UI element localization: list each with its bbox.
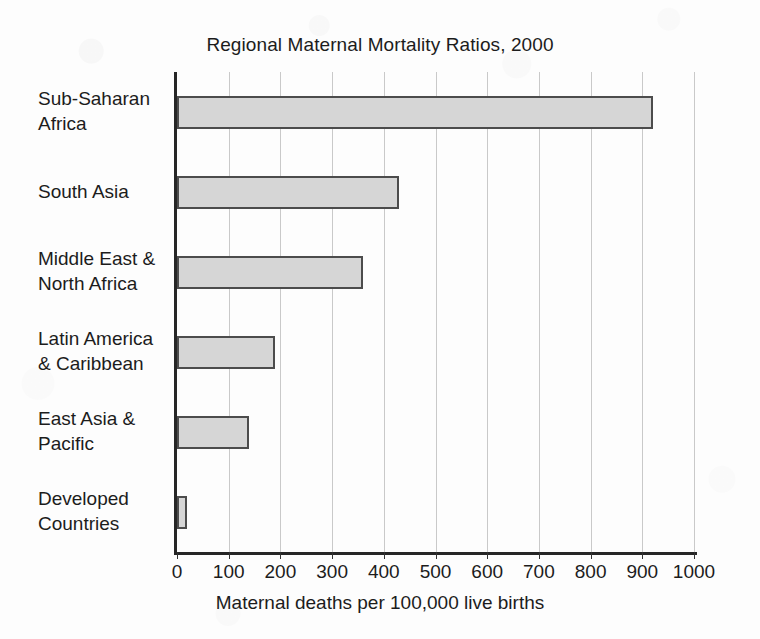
category-label-south-asia: South Asia [38,179,170,204]
x-tick-800 [591,552,592,559]
category-label-line: Latin America [38,326,170,351]
gridline-500 [436,72,437,552]
x-tick-400 [384,552,385,559]
x-tick-label-400: 400 [368,561,400,583]
category-label-line: Countries [38,511,170,536]
gridline-400 [384,72,385,552]
gridline-100 [229,72,230,552]
bar-developed-countries [177,496,187,529]
gridline-800 [591,72,592,552]
bar-middle-east-north-africa [177,256,363,289]
x-tick-500 [436,552,437,559]
category-label-line: South Asia [38,179,170,204]
category-label-latin-america-caribbean: Latin America& Caribbean [38,326,170,376]
x-tick-200 [280,552,281,559]
gridline-900 [642,72,643,552]
x-tick-label-0: 0 [172,561,183,583]
bar-south-asia [177,176,399,209]
gridline-200 [280,72,281,552]
x-tick-label-300: 300 [316,561,348,583]
chart-title: Regional Maternal Mortality Ratios, 2000 [0,34,760,56]
x-tick-0 [177,552,178,559]
category-label-line: Africa [38,111,170,136]
category-label-line: Sub-Saharan [38,86,170,111]
category-label-line: East Asia & [38,406,170,431]
category-label-developed-countries: DevelopedCountries [38,486,170,536]
x-tick-label-900: 900 [626,561,658,583]
x-tick-900 [642,552,643,559]
x-tick-label-100: 100 [213,561,245,583]
x-tick-label-600: 600 [471,561,503,583]
category-label-line: Pacific [38,431,170,456]
x-tick-label-1000: 1000 [673,561,715,583]
x-tick-1000 [694,552,695,559]
x-tick-label-200: 200 [265,561,297,583]
category-label-middle-east-north-africa: Middle East &North Africa [38,246,170,296]
x-tick-600 [487,552,488,559]
bar-latin-america-caribbean [177,336,275,369]
x-tick-700 [539,552,540,559]
bar-sub-saharan-africa [177,96,653,129]
category-label-line: Developed [38,486,170,511]
y-axis-line [174,72,177,554]
x-axis-title: Maternal deaths per 100,000 live births [0,592,760,614]
plot-area [177,72,694,552]
gridline-700 [539,72,540,552]
category-label-line: North Africa [38,271,170,296]
category-label-line: Middle East & [38,246,170,271]
gridline-300 [332,72,333,552]
category-label-line: & Caribbean [38,351,170,376]
x-tick-label-500: 500 [420,561,452,583]
gridline-600 [487,72,488,552]
x-tick-label-700: 700 [523,561,555,583]
gridline-1000 [694,72,695,552]
bar-chart-figure: Regional Maternal Mortality Ratios, 2000… [0,0,760,639]
bar-east-asia-pacific [177,416,249,449]
x-tick-label-800: 800 [575,561,607,583]
x-tick-100 [229,552,230,559]
category-label-east-asia-pacific: East Asia &Pacific [38,406,170,456]
category-label-sub-saharan-africa: Sub-SaharanAfrica [38,86,170,136]
x-tick-300 [332,552,333,559]
